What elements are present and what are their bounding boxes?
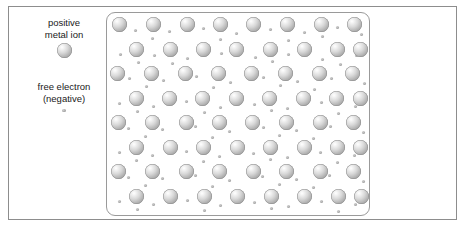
metal-ion-sphere-icon [230,140,245,155]
free-electron-dot-icon [330,77,333,80]
free-electron-dot-icon [194,125,197,128]
free-electron-dot-icon [313,88,316,91]
metal-ion-sphere-icon [111,115,126,130]
metal-ion-sphere-icon [330,42,345,57]
metal-ion-sphere-icon [195,91,210,106]
metal-ion-sphere-icon [314,17,329,32]
free-electron-dot-icon [353,154,356,157]
metal-ion-sphere-icon [330,140,345,155]
free-electron-dot-icon [312,137,315,140]
free-electron-dot-icon [269,28,272,31]
metal-ion-sphere-icon [145,164,160,179]
free-electron-dot-icon [262,76,265,79]
free-electron-dot-icon [162,79,165,82]
metal-ion-sphere-icon [296,91,311,106]
metal-ion-sphere-icon [129,140,144,155]
free-electron-dot-icon [202,160,205,163]
legend-positive-metal-ion: positive metal ion [12,17,116,58]
free-electron-dot-icon [186,57,189,60]
free-electron-dot-icon [270,109,273,112]
free-electron-dot-icon [135,159,138,162]
free-electron-dot-icon [319,151,322,154]
free-electron-dot-icon [144,184,147,187]
free-electron-dot-icon [328,174,331,177]
metal-ion-sphere-icon [212,164,227,179]
free-electron-dot-icon [203,209,206,212]
free-electron-dot-icon [212,86,215,89]
free-electron-dot-icon [219,106,222,109]
metal-ion-sphere-icon [297,189,312,204]
free-electron-dot-icon [127,127,130,130]
free-electron-dot-icon [336,26,339,29]
free-electron-dot-icon [303,31,306,34]
free-electron-dot-icon [253,103,256,106]
metal-ion-sphere-icon [129,42,144,57]
free-electron-dot-icon [261,175,264,178]
metal-ion-sphere-icon [129,189,144,204]
free-electron-dot-icon [219,204,222,207]
metal-ion-sphere-icon [263,140,278,155]
free-electron-dot-icon [195,75,198,78]
metal-ion-sphere-icon [57,43,72,58]
free-electron-dot-icon [119,53,122,56]
free-electron-dot-icon [144,135,147,138]
free-electron-dot-icon [279,84,282,87]
metal-ion-sphere-icon [245,115,260,130]
free-electron-dot-icon [286,156,289,159]
free-electron-dot-icon [287,205,290,208]
metal-lattice-box [106,12,370,216]
metal-ion-sphere-icon [129,91,144,106]
free-electron-dot-icon [339,63,342,66]
free-electron-dot-icon [153,54,156,57]
metal-ion-sphere-icon [212,115,227,130]
metallic-bonding-diagram: positive metal ion free electron (negati… [0,0,465,229]
free-electron-dot-icon [287,39,290,42]
free-electron-dot-icon [252,152,255,155]
free-electron-dot-icon [136,110,139,113]
free-electron-dot-icon [295,178,298,181]
free-electron-dot-icon [134,29,137,32]
metal-ion-sphere-icon [162,91,177,106]
metal-ion-sphere-icon [297,140,312,155]
free-electron-dot-icon [228,130,231,133]
free-electron-dot-icon [269,158,272,161]
metal-ion-sphere-icon [278,66,293,81]
metal-ion-sphere-icon [345,66,360,81]
metal-ion-sphere-icon [145,115,160,130]
free-electron-dot-icon [171,62,174,65]
free-electron-dot-icon [194,174,197,177]
legend-free-electron: free electron (negative) [12,81,116,112]
free-electron-dot-icon [62,109,65,112]
metal-ion-sphere-icon [329,91,344,106]
free-electron-dot-icon [152,203,155,206]
free-electron-dot-icon [128,77,131,80]
free-electron-dot-icon [320,200,323,203]
metal-ion-sphere-icon [346,115,361,130]
free-electron-dot-icon [235,32,238,35]
free-electron-dot-icon [219,38,222,41]
free-electron-dot-icon [211,185,214,188]
free-electron-dot-icon [336,161,339,164]
free-electron-dot-icon [278,134,281,137]
free-electron-dot-icon [220,52,223,55]
metal-ion-sphere-icon [229,91,244,106]
metal-ion-sphere-icon [331,189,346,204]
metal-ion-sphere-icon [229,42,244,57]
metal-ion-sphere-icon [297,42,312,57]
metal-ion-sphere-icon [313,164,328,179]
free-electron-dot-icon [362,131,365,134]
metal-ion-sphere-icon [163,42,178,57]
metal-ion-sphere-icon [354,189,369,204]
metal-ion-sphere-icon [280,17,295,32]
free-electron-dot-icon [295,129,298,132]
metal-ion-sphere-icon [246,164,261,179]
metal-ion-sphere-icon [110,66,125,81]
metal-ion-sphere-icon [179,164,194,179]
metal-ion-sphere-icon [346,164,361,179]
metal-ion-sphere-icon [213,17,228,32]
free-electron-dot-icon [186,199,189,202]
free-electron-dot-icon [151,154,154,157]
free-electron-dot-icon [228,179,231,182]
free-electron-dot-icon [262,126,265,129]
free-electron-dot-icon [362,180,365,183]
